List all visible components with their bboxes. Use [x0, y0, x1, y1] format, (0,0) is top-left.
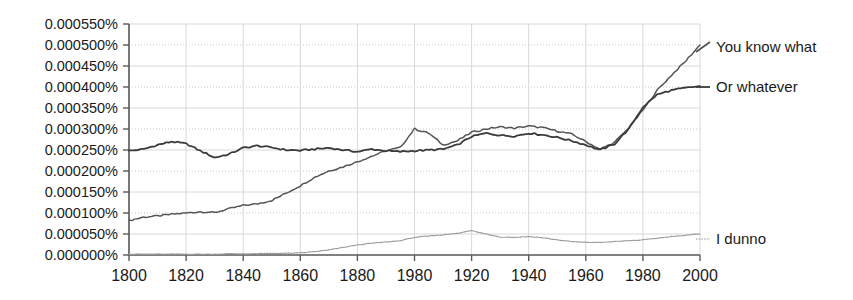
legend-layer: You know whatOr whateverI dunno — [696, 38, 817, 247]
grid-layer — [129, 24, 700, 255]
y-axis-tick-label: 0.000000% — [45, 247, 118, 263]
y-axis-tick-label: 0.000150% — [45, 184, 118, 200]
y-axis-tick-label: 0.000100% — [45, 205, 118, 221]
legend-label: You know what — [716, 38, 817, 55]
y-axis-tick-label: 0.000450% — [45, 58, 118, 74]
y-axis-tick-label: 0.000550% — [45, 16, 118, 32]
ytick-labels: 0.000550%0.000500%0.000450%0.000400%0.00… — [45, 16, 118, 263]
legend-label: I dunno — [716, 230, 766, 247]
legend-entry[interactable]: I dunno — [696, 230, 766, 247]
x-axis-tick-label: 1940 — [511, 267, 547, 284]
x-axis-tick-label: 1820 — [168, 267, 204, 284]
y-axis-tick-label: 0.000500% — [45, 37, 118, 53]
y-axis-tick-label: 0.000400% — [45, 79, 118, 95]
x-axis-tick-label: 1800 — [111, 267, 147, 284]
x-axis-tick-label: 1980 — [625, 267, 661, 284]
x-axis-tick-label: 1960 — [568, 267, 604, 284]
x-axis-tick-label: 2000 — [682, 267, 718, 284]
y-axis-tick-label: 0.000250% — [45, 142, 118, 158]
x-axis-tick-label: 1860 — [283, 267, 319, 284]
x-axis-tick-label: 1880 — [340, 267, 376, 284]
y-axis-tick-label: 0.000350% — [45, 100, 118, 116]
x-axis-tick-label: 1920 — [454, 267, 490, 284]
legend-label: Or whatever — [716, 78, 798, 95]
xtick-labels: 1800182018401860188019801920194019601980… — [111, 267, 718, 284]
x-axis-tick-label: 1840 — [225, 267, 261, 284]
x-axis-tick-label: 1980 — [397, 267, 433, 284]
y-axis-tick-label: 0.000050% — [45, 226, 118, 242]
chart-canvas: 0.000550%0.000500%0.000450%0.000400%0.00… — [0, 0, 853, 300]
y-axis-tick-label: 0.000300% — [45, 121, 118, 137]
legend-entry[interactable]: You know what — [696, 38, 817, 55]
y-axis-tick-label: 0.000200% — [45, 163, 118, 179]
ngram-chart: 0.000550%0.000500%0.000450%0.000400%0.00… — [0, 0, 853, 300]
legend-entry[interactable]: Or whatever — [696, 78, 798, 95]
